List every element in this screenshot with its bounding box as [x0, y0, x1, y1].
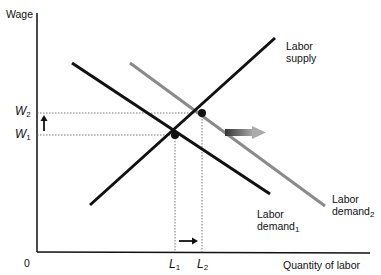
origin-label: 0 [24, 257, 30, 269]
labor-supply-label: Laborsupply [286, 40, 316, 64]
labor-demand-2-label: Labordemand2 [332, 193, 374, 221]
l1-tick-label: L1 [169, 258, 180, 274]
x-axis [37, 252, 370, 253]
quantity-right-arrow-icon [179, 238, 198, 245]
labor-demand-1-label: Labordemand1 [257, 208, 299, 236]
l2-tick-label: L2 [197, 258, 208, 274]
wage-up-arrow-icon [41, 115, 48, 131]
equilibrium-2-point [198, 109, 206, 117]
w1-tick-label: W1 [15, 128, 31, 144]
x-axis-label: Quantity of labor [283, 259, 360, 271]
labor-market-diagram [0, 0, 381, 275]
equilibrium-1-point [171, 131, 179, 139]
w2-tick-label: W2 [15, 105, 31, 121]
y-axis-label: Wage [6, 8, 33, 20]
labor-demand-1-line [72, 63, 270, 194]
